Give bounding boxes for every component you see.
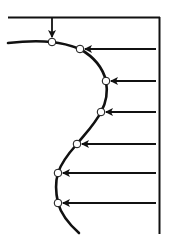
- node-5: [73, 140, 81, 148]
- node-1: [48, 38, 56, 46]
- diagram-canvas: [0, 0, 169, 248]
- node-6: [54, 169, 62, 177]
- node-2: [76, 45, 84, 53]
- node-7: [54, 199, 62, 207]
- node-4: [97, 108, 105, 116]
- node-3: [102, 77, 110, 85]
